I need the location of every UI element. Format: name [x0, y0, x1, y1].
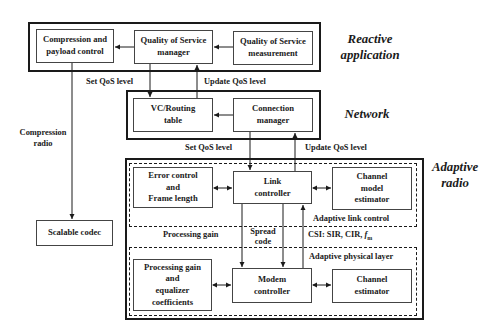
processing-gain-label: Processing gain	[163, 230, 218, 240]
scalable-codec-box: Scalable codec	[36, 220, 113, 246]
layer-label-line: Reactive	[330, 31, 410, 47]
box-text: manager	[252, 115, 294, 127]
label-line: code	[247, 237, 279, 247]
spread-code-label: Spread code	[247, 227, 279, 247]
label-line: Compression	[13, 128, 73, 138]
csi-text: CSI: SIR, CIR,	[308, 230, 365, 239]
box-text: Connection	[252, 103, 294, 115]
qos-manager-box: Quality of Service manager	[134, 30, 213, 64]
csi-label: CSI: SIR, CIR, fm	[308, 230, 372, 243]
box-text: Channel	[355, 171, 390, 183]
box-text: controller	[254, 286, 290, 298]
box-text: controller	[254, 188, 290, 200]
update-qos-level-label: Update QoS level	[204, 77, 266, 87]
layer-label-line: application	[330, 47, 410, 63]
adaptive-link-control-label: Adaptive link control	[313, 214, 389, 224]
box-text: model	[355, 183, 390, 195]
reactive-application-label: Reactive application	[330, 31, 410, 63]
csi-subscript: m	[367, 235, 372, 241]
box-text: Frame length	[148, 193, 197, 205]
box-text: Quality of Service	[240, 36, 306, 48]
network-label: Network	[327, 106, 407, 122]
box-text: Link	[254, 176, 290, 188]
box-text: Channel	[355, 274, 390, 286]
layer-label-line: radio	[415, 175, 495, 191]
box-text: and	[144, 273, 201, 285]
label-line: Spread	[247, 227, 279, 237]
connection-manager-box: Connection manager	[233, 98, 313, 132]
box-text: Compression and	[43, 34, 107, 46]
adaptive-radio-label: Adaptive radio	[415, 159, 495, 191]
box-text: estimator	[355, 286, 390, 298]
processing-gain-equalizer-box: Processing gain and equalizer coefficien…	[133, 259, 212, 311]
layer-label-line: Adaptive	[415, 159, 495, 175]
box-text: Modem	[254, 274, 290, 286]
error-control-frame-length-box: Error control and Frame length	[133, 167, 213, 208]
box-text: manager	[141, 47, 207, 59]
box-text: Error control	[148, 170, 197, 182]
update-qos-level-label-2: Update QoS level	[305, 143, 367, 153]
box-text: estimator	[355, 194, 390, 206]
channel-model-estimator-box: Channel model estimator	[332, 167, 412, 210]
box-text: payload control	[43, 46, 107, 58]
vc-routing-table-box: VC/Routing table	[133, 98, 213, 132]
box-text: and	[148, 182, 197, 194]
box-text: table	[151, 115, 195, 127]
qos-measurement-box: Quality of Service measurement	[233, 31, 313, 65]
box-text: Quality of Service	[141, 35, 207, 47]
set-qos-level-label-2: Set QoS level	[185, 143, 232, 153]
channel-estimator-box: Channel estimator	[332, 269, 412, 303]
box-text: Processing gain	[144, 262, 201, 274]
link-controller-box: Link controller	[233, 171, 312, 204]
box-text: coefficients	[144, 297, 201, 309]
box-text: measurement	[240, 48, 306, 60]
modem-controller-box: Modem controller	[232, 268, 312, 303]
label-line: radio	[13, 139, 73, 149]
set-qos-level-label: Set QoS level	[86, 77, 133, 87]
adaptive-physical-layer-label: Adaptive physical layer	[309, 252, 393, 262]
compression-payload-control-box: Compression and payload control	[36, 29, 114, 63]
compression-radio-label: Compression radio	[13, 128, 73, 149]
box-text: VC/Routing	[151, 103, 195, 115]
box-text: equalizer	[144, 285, 201, 297]
